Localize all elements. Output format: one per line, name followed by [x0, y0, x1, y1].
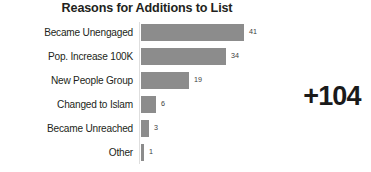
plot-area: Became Unengaged 41 Pop. Increase 100K 3… [0, 20, 294, 168]
bar-value-label: 1 [149, 148, 153, 156]
bar [141, 48, 226, 65]
bar-chart: Reasons for Additions to List Became Une… [0, 0, 371, 172]
bar [141, 120, 149, 137]
bar-value-label: 19 [194, 76, 202, 84]
bar [141, 24, 244, 41]
category-label: New People Group [0, 75, 133, 86]
category-label: Became Unengaged [0, 27, 133, 38]
bar [141, 144, 144, 161]
total-additions-annotation: +104 [296, 81, 368, 111]
bar-container: 19 [141, 72, 294, 89]
table-row: Other 1 [0, 140, 294, 164]
category-label: Pop. Increase 100K [0, 51, 133, 62]
bar-container: 1 [141, 144, 294, 161]
table-row: Pop. Increase 100K 34 [0, 44, 294, 68]
table-row: New People Group 19 [0, 68, 294, 92]
chart-title: Reasons for Additions to List [0, 1, 294, 15]
bar-value-label: 41 [249, 28, 257, 36]
table-row: Became Unreached 3 [0, 116, 294, 140]
category-label: Other [0, 147, 133, 158]
bar-value-label: 34 [231, 52, 239, 60]
category-label: Became Unreached [0, 123, 133, 134]
bar-container: 34 [141, 48, 294, 65]
bar [141, 96, 156, 113]
bar-value-label: 6 [161, 100, 165, 108]
category-label: Changed to Islam [0, 99, 133, 110]
bar [141, 72, 189, 89]
table-row: Became Unengaged 41 [0, 20, 294, 44]
bar-value-label: 3 [154, 124, 158, 132]
table-row: Changed to Islam 6 [0, 92, 294, 116]
bar-container: 41 [141, 24, 294, 41]
bar-container: 6 [141, 96, 294, 113]
bar-container: 3 [141, 120, 294, 137]
